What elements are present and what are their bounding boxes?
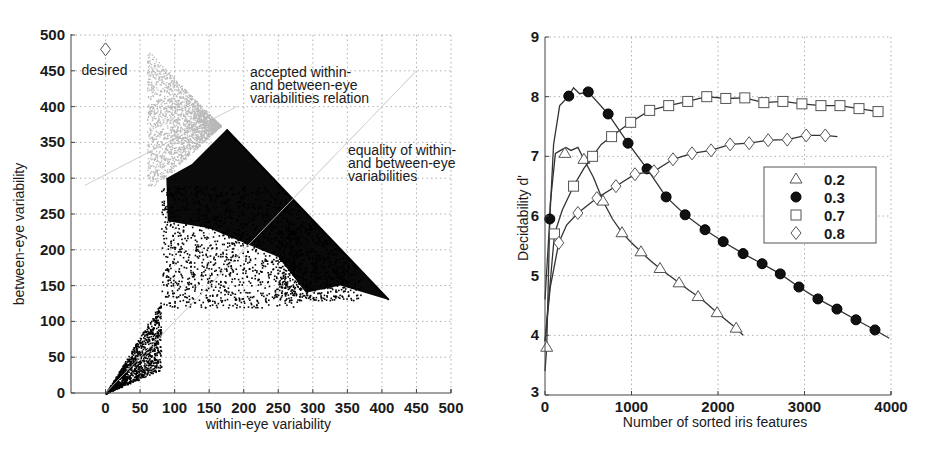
- square-marker: [721, 93, 731, 103]
- triangle-marker: [730, 322, 742, 332]
- filled-circle-marker: [851, 315, 861, 325]
- x-tick-label: 500: [438, 399, 463, 416]
- x-tick-label: 450: [404, 399, 429, 416]
- x-tick-label: 250: [266, 399, 291, 416]
- filled-circle-marker: [794, 282, 804, 292]
- diamond-marker: [630, 168, 640, 181]
- triangle-marker: [541, 341, 553, 351]
- filled-circle-marker: [661, 192, 671, 202]
- filled-circle-marker: [603, 109, 613, 119]
- legend-filled-circle-icon: [791, 192, 801, 202]
- square-marker: [873, 107, 883, 117]
- scatter-chart-variability: 0501001502002503003504004505000501001502…: [11, 26, 464, 432]
- y-tick-label: 8: [531, 88, 539, 105]
- y-tick-label: 50: [48, 348, 65, 365]
- square-marker: [759, 98, 769, 108]
- x-tick-label: 50: [132, 399, 149, 416]
- square-marker: [778, 96, 788, 106]
- filled-circle-marker: [832, 304, 842, 314]
- diamond-marker: [763, 134, 773, 147]
- x-tick-label: 1000: [615, 398, 648, 415]
- square-marker: [569, 181, 579, 191]
- square-marker: [740, 93, 750, 103]
- y-tick-label: 6: [531, 207, 539, 224]
- triangle-marker: [692, 291, 704, 301]
- diamond-marker: [687, 147, 697, 160]
- diamond-marker: [706, 144, 716, 157]
- filled-circle-marker: [738, 249, 748, 259]
- equality-label: variabilities: [348, 168, 417, 184]
- x-tick-label: 200: [231, 399, 256, 416]
- x-tick-label: 300: [300, 399, 325, 416]
- y-tick-label: 400: [40, 98, 65, 115]
- y-tick-label: 4: [531, 326, 540, 343]
- y-axis-label: between-eye variability: [11, 163, 27, 305]
- y-tick-label: 500: [40, 26, 65, 43]
- square-marker: [645, 105, 655, 115]
- x-tick-label: 0: [101, 399, 109, 416]
- figure: 0501001502002503003504004505000501001502…: [0, 0, 929, 457]
- filled-circle-marker: [564, 91, 574, 101]
- y-tick-label: 3: [531, 383, 539, 400]
- square-marker: [683, 96, 693, 106]
- x-tick-label: 2000: [701, 398, 734, 415]
- diamond-marker: [668, 153, 678, 166]
- triangle-marker: [616, 227, 628, 237]
- x-tick-label: 350: [335, 399, 360, 416]
- filled-circle-marker: [700, 225, 710, 235]
- y-tick-label: 250: [40, 205, 65, 222]
- filled-circle-marker: [813, 294, 823, 304]
- diamond-marker: [744, 137, 754, 150]
- legend-label: 0.8: [824, 225, 845, 242]
- y-tick-label: 0: [57, 384, 65, 401]
- x-axis-label: within-eye variability: [205, 416, 331, 432]
- filled-circle-marker: [775, 269, 785, 279]
- accepted-relation-label: variabilities relation: [250, 90, 369, 106]
- x-axis-label: Number of sorted iris features: [623, 414, 807, 430]
- diamond-marker: [725, 138, 735, 151]
- y-tick-label: 150: [40, 277, 65, 294]
- x-tick-label: 400: [369, 399, 394, 416]
- legend-box: [764, 167, 876, 243]
- desired-marker: [101, 43, 111, 56]
- filled-circle-marker: [545, 214, 555, 224]
- square-marker: [626, 117, 636, 127]
- diamond-marker: [820, 129, 830, 142]
- legend: 0.20.30.70.8: [764, 167, 876, 243]
- filled-circle-marker: [870, 325, 880, 335]
- y-tick-label: 5: [531, 267, 539, 284]
- square-marker: [797, 99, 807, 109]
- filled-circle-marker: [583, 87, 593, 97]
- square-marker: [664, 101, 674, 111]
- x-tick-label: 0: [541, 398, 549, 415]
- diamond-marker: [782, 133, 792, 146]
- legend-square-icon: [791, 210, 801, 220]
- legend-label: 0.2: [824, 171, 845, 188]
- filled-circle-marker: [718, 237, 728, 247]
- x-tick-label: 100: [162, 399, 187, 416]
- square-marker: [702, 92, 712, 102]
- desired-label: desired: [82, 62, 128, 78]
- legend-label: 0.7: [824, 207, 845, 224]
- triangle-marker: [673, 277, 685, 287]
- filled-circle-marker: [757, 259, 767, 269]
- y-axis-label: Decidability d': [515, 175, 531, 261]
- square-marker: [588, 151, 598, 161]
- square-marker: [816, 101, 826, 111]
- diamond-marker: [801, 129, 811, 142]
- x-tick-label: 3000: [788, 398, 821, 415]
- y-tick-label: 9: [531, 28, 539, 45]
- y-tick-label: 7: [531, 147, 539, 164]
- line-chart-decidability: 010002000300040003456789Number of sorted…: [515, 28, 908, 430]
- filled-circle-marker: [623, 138, 633, 148]
- legend-label: 0.3: [824, 189, 845, 206]
- filled-circle-marker: [680, 210, 690, 220]
- x-tick-label: 150: [197, 399, 222, 416]
- diamond-marker: [611, 180, 621, 193]
- y-tick-label: 350: [40, 133, 65, 150]
- y-tick-label: 100: [40, 312, 65, 329]
- y-tick-label: 200: [40, 241, 65, 258]
- triangle-marker: [654, 263, 666, 273]
- square-marker: [607, 132, 617, 142]
- y-tick-label: 450: [40, 62, 65, 79]
